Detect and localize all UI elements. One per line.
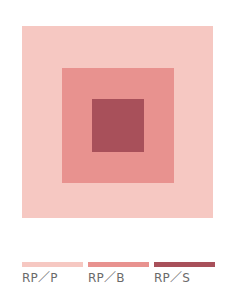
legend-item-rp-p: RP／P <box>22 262 83 285</box>
legend-label: RP／P <box>22 271 83 285</box>
legend-label: RP／B <box>88 271 149 285</box>
legend-label: RP／S <box>154 271 215 285</box>
legend-swatch <box>154 262 215 267</box>
inner-square-rp-s <box>92 99 144 152</box>
legend-swatch <box>22 262 83 267</box>
legend-swatch <box>88 262 149 267</box>
legend-item-rp-b: RP／B <box>88 262 149 285</box>
legend-item-rp-s: RP／S <box>154 262 215 285</box>
legend: RP／P RP／B RP／S <box>0 262 233 288</box>
